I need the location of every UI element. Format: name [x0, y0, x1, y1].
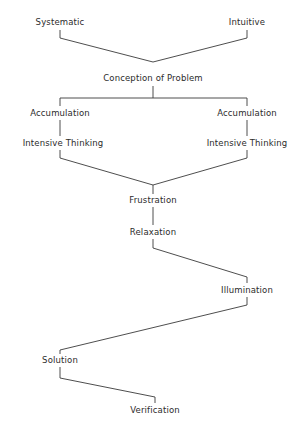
node-intuitive: Intuitive — [227, 17, 267, 27]
node-conception-of-problem: Conception of Problem — [101, 73, 205, 83]
node-verification: Verification — [128, 405, 182, 415]
connector-relaxation-to-illumination — [153, 239, 247, 283]
connector-thinking-right-to-frustration — [153, 150, 247, 185]
connector-intuitive-to-conception — [153, 30, 247, 62]
node-accumulation-left: Accumulation — [28, 108, 92, 118]
node-illumination: Illumination — [219, 285, 275, 295]
flow-diagram: Systematic Intuitive Conception of Probl… — [0, 0, 303, 430]
flow-connectors-layer — [0, 0, 303, 430]
node-intensive-thinking-right: Intensive Thinking — [205, 138, 290, 148]
node-systematic: Systematic — [34, 17, 87, 27]
connector-systematic-to-conception — [60, 30, 153, 62]
node-frustration: Frustration — [127, 195, 179, 205]
node-accumulation-right: Accumulation — [215, 108, 279, 118]
node-intensive-thinking-left: Intensive Thinking — [21, 138, 106, 148]
connector-illumination-to-solution — [60, 297, 247, 354]
node-relaxation: Relaxation — [128, 227, 178, 237]
connector-solution-to-verification — [60, 367, 155, 403]
node-solution: Solution — [40, 355, 80, 365]
connector-thinking-left-to-frustration — [60, 150, 153, 185]
